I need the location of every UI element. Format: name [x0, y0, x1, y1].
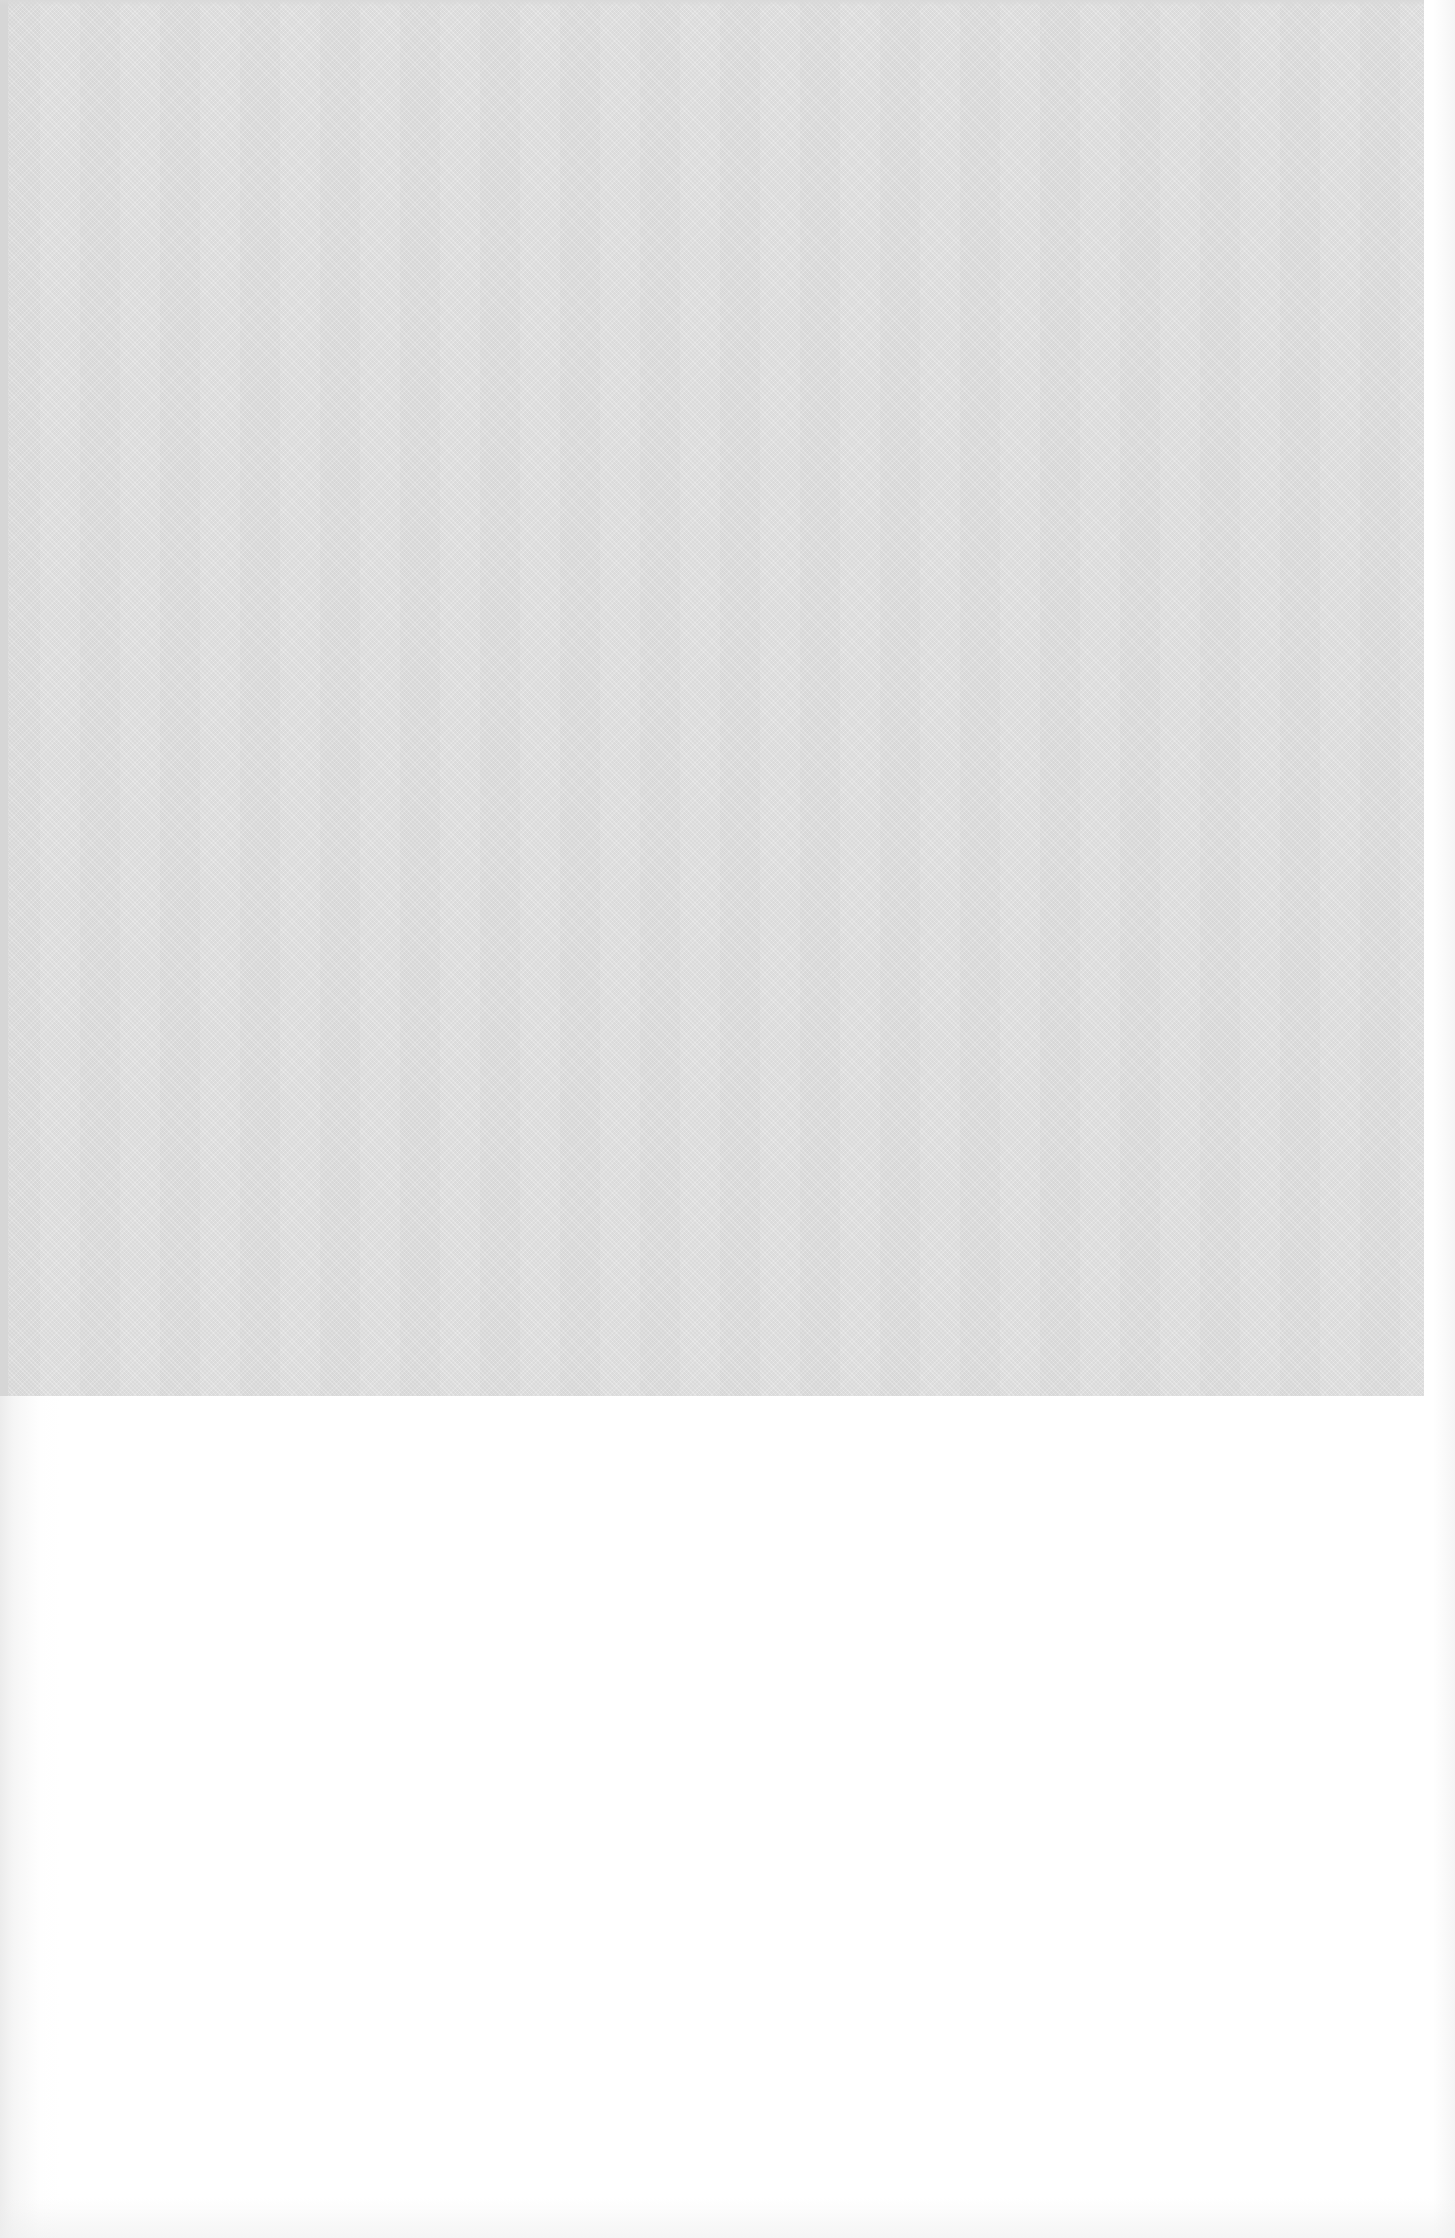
plate-top-edge — [0, 0, 1424, 6]
page-edge-shadow-right — [1433, 0, 1455, 2238]
plate-left-edge — [0, 0, 8, 1396]
book-page — [0, 0, 1455, 2238]
textured-plate-image — [0, 0, 1424, 1396]
page-edge-shadow-bottom — [0, 2198, 1455, 2238]
